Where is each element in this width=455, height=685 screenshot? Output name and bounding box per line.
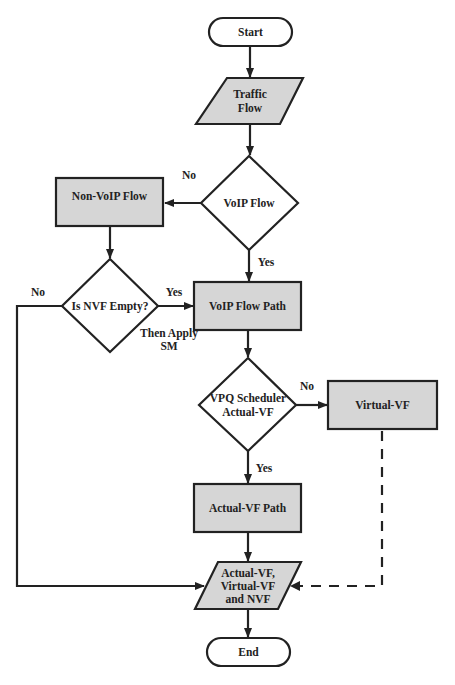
node-virtual-vf-label: Virtual-VF xyxy=(355,399,410,411)
connectors xyxy=(17,46,382,637)
node-voip-flow-path: VoIP Flow Path xyxy=(194,282,301,330)
node-output: Actual-VF, Virtual-VF and NVF xyxy=(195,562,301,609)
label-nvf-note-line1: Then Apply xyxy=(140,327,198,340)
node-output-line1: Actual-VF, xyxy=(221,567,275,579)
node-is-nvf-empty-label: Is NVF Empty? xyxy=(72,300,149,313)
label-vpq-no: No xyxy=(300,380,314,392)
label-vpq-yes: Yes xyxy=(256,462,273,474)
node-voip-flow-label: VoIP Flow xyxy=(223,197,275,209)
node-virtual-vf: Virtual-VF xyxy=(328,381,437,429)
node-actual-vf-path: Actual-VF Path xyxy=(194,484,301,532)
flowchart-canvas: Start Traffic Flow VoIP Flow Non-VoIP Fl… xyxy=(0,0,455,685)
node-voip-flow-path-label: VoIP Flow Path xyxy=(209,300,286,312)
node-vpq-scheduler: VPQ Scheduler Actual-VF xyxy=(199,358,296,451)
node-vpq-scheduler-line2: Actual-VF xyxy=(222,406,274,418)
label-nvf-no: No xyxy=(31,286,45,298)
node-traffic-flow-line2: Flow xyxy=(238,102,263,114)
node-vpq-scheduler-line1: VPQ Scheduler xyxy=(210,392,286,404)
node-non-voip-flow: Non-VoIP Flow xyxy=(56,178,163,226)
node-traffic-flow: Traffic Flow xyxy=(196,78,303,124)
edge-virtual-to-output-dashed xyxy=(296,431,382,586)
label-nvf-note-line2: SM xyxy=(160,340,177,352)
node-voip-flow: VoIP Flow xyxy=(201,156,298,250)
node-end: End xyxy=(207,638,290,666)
node-traffic-flow-line1: Traffic xyxy=(233,88,267,100)
node-non-voip-flow-label: Non-VoIP Flow xyxy=(72,190,148,202)
label-nvf-yes: Yes xyxy=(166,286,183,298)
node-start-label: Start xyxy=(238,26,263,38)
node-output-line2: Virtual-VF xyxy=(221,580,276,592)
node-start: Start xyxy=(209,18,292,46)
label-voip-no: No xyxy=(182,169,196,181)
node-end-label: End xyxy=(238,646,259,658)
node-actual-vf-path-label: Actual-VF Path xyxy=(209,502,287,514)
label-voip-yes: Yes xyxy=(258,256,275,268)
node-output-line3: and NVF xyxy=(225,593,270,605)
